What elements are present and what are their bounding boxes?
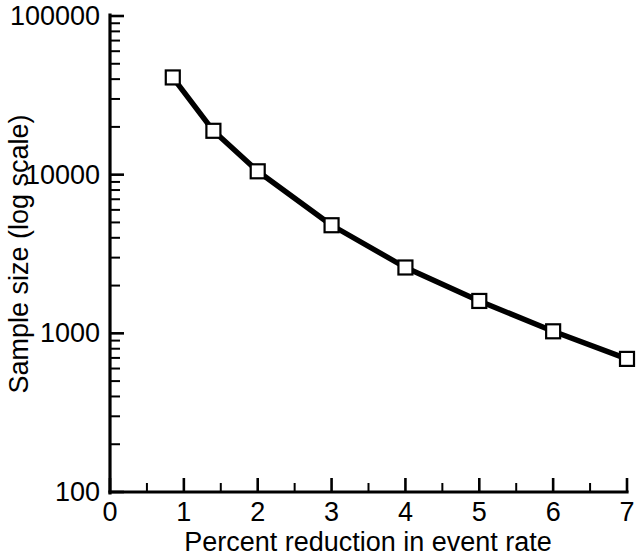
data-point-marker bbox=[620, 352, 634, 366]
data-point-marker bbox=[398, 260, 412, 274]
y-tick-label-100000: 100000 bbox=[10, 1, 100, 31]
data-point-marker bbox=[166, 70, 180, 84]
x-axis-title: Percent reduction in event rate bbox=[184, 527, 552, 557]
y-axis-title: Sample size (log scale) bbox=[4, 114, 34, 393]
y-axis-major-ticks bbox=[110, 16, 124, 492]
y-tick-label-100: 100 bbox=[55, 477, 100, 507]
data-point-marker bbox=[546, 324, 560, 338]
data-point-marker bbox=[472, 294, 486, 308]
x-axis-tick-labels: 01234567 bbox=[102, 497, 634, 527]
x-axis: 01234567 bbox=[102, 478, 634, 527]
data-point-marker bbox=[251, 164, 265, 178]
data-point-marker bbox=[325, 218, 339, 232]
y-tick-label-1000: 1000 bbox=[40, 318, 100, 348]
x-tick-label-0: 0 bbox=[102, 497, 117, 527]
x-tick-label-6: 6 bbox=[546, 497, 561, 527]
data-series bbox=[166, 70, 634, 365]
x-tick-label-5: 5 bbox=[472, 497, 487, 527]
x-tick-label-7: 7 bbox=[619, 497, 634, 527]
x-tick-label-4: 4 bbox=[398, 497, 413, 527]
x-tick-label-3: 3 bbox=[324, 497, 339, 527]
data-point-marker bbox=[206, 124, 220, 138]
line-chart: 100100010000100000 01234567 Percent redu… bbox=[0, 0, 643, 558]
x-tick-label-2: 2 bbox=[250, 497, 265, 527]
series-line-sample-size bbox=[173, 77, 627, 358]
chart-figure: 100100010000100000 01234567 Percent redu… bbox=[0, 0, 643, 558]
series-markers bbox=[166, 70, 634, 365]
x-tick-label-1: 1 bbox=[176, 497, 191, 527]
y-tick-label-10000: 10000 bbox=[25, 160, 100, 190]
